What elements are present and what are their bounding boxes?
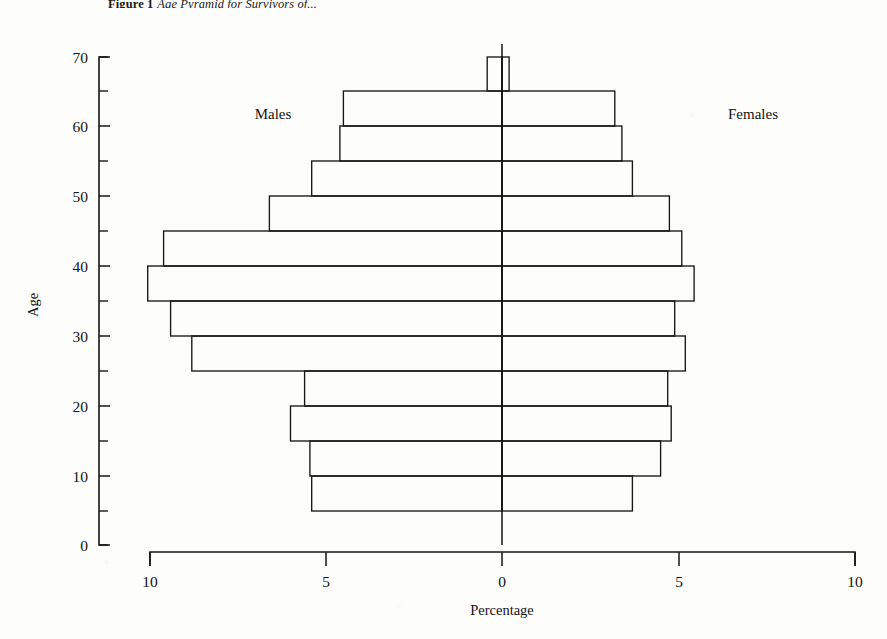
bar-female-10-15 (502, 441, 661, 476)
bar-male-10-15 (310, 441, 502, 476)
x-tick-label-0: 0 (498, 573, 506, 590)
x-axis: 10 5 0 5 10 Percentage (142, 552, 863, 618)
y-tick-label-30: 30 (73, 328, 89, 345)
bar-female-25-30 (502, 336, 685, 371)
bar-female-5-10 (502, 476, 632, 511)
figure-root: Figure 1 Age Pyramid for Survivors of... (0, 0, 887, 639)
bar-male-60-65 (343, 91, 502, 126)
bar-female-50-55 (502, 161, 632, 196)
x-tick-label-right-5: 5 (675, 573, 683, 590)
bar-female-55-60 (502, 126, 622, 161)
bar-male-40-45 (164, 231, 502, 266)
x-tick-label-left-5: 5 (322, 573, 330, 590)
population-pyramid-chart: 70 60 50 40 30 20 10 0 Age 10 5 0 (0, 0, 887, 639)
bar-male-30-35 (171, 301, 502, 336)
series-label-males: Males (255, 106, 292, 122)
bar-female-35-40 (502, 266, 694, 301)
bar-male-20-25 (305, 371, 502, 406)
bar-female-40-45 (502, 231, 682, 266)
y-tick-label-0: 0 (80, 537, 88, 554)
y-tick-label-10: 10 (73, 468, 89, 485)
series-label-females: Females (728, 106, 778, 122)
y-tick-label-40: 40 (73, 258, 89, 275)
bar-male-5-10 (312, 476, 502, 511)
bar-male-25-30 (192, 336, 502, 371)
y-tick-label-70: 70 (73, 49, 89, 66)
y-tick-label-20: 20 (73, 398, 89, 415)
bar-female-45-50 (502, 196, 669, 231)
bar-female-60-65 (502, 91, 615, 126)
x-tick-label-right-10: 10 (847, 573, 863, 590)
bar-female-30-35 (502, 301, 675, 336)
bar-male-15-20 (291, 406, 503, 441)
x-axis-title: Percentage (470, 602, 534, 618)
bars-females (502, 57, 694, 511)
y-axis: 70 60 50 40 30 20 10 0 Age (25, 49, 110, 554)
y-tick-label-50: 50 (73, 188, 89, 205)
bar-female-15-20 (502, 406, 671, 441)
bar-male-55-60 (340, 126, 502, 161)
x-tick-label-left-10: 10 (142, 573, 158, 590)
bar-female-20-25 (502, 371, 668, 406)
bar-male-35-40 (148, 266, 502, 301)
bars-males (148, 57, 502, 511)
bar-female-65-70 (502, 57, 509, 91)
bar-male-45-50 (269, 196, 502, 231)
bar-male-50-55 (312, 161, 502, 196)
y-axis-title: Age (25, 293, 41, 317)
y-tick-label-60: 60 (73, 118, 89, 135)
bar-male-65-70 (487, 57, 502, 91)
